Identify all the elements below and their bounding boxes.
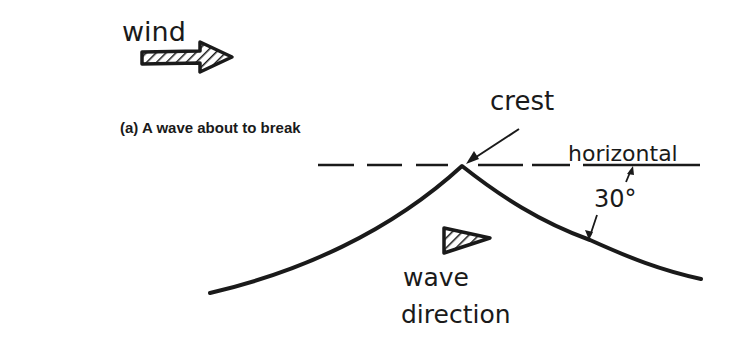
wave-direction-label-line2: direction: [401, 300, 511, 329]
wave-direction-arrow-icon: [444, 228, 490, 253]
crest-label: crest: [490, 86, 554, 116]
wave-direction-label-line1: wave: [403, 263, 469, 292]
horizontal-label: horizontal: [568, 141, 678, 166]
angle-label: 30°: [594, 185, 637, 213]
crest-pointer-arrow: [466, 129, 519, 164]
figure-caption: (a) A wave about to break: [120, 119, 301, 136]
wave-diagram: wind (a) A wave about to break crest hor…: [0, 0, 733, 357]
wind-label: wind: [122, 16, 186, 47]
